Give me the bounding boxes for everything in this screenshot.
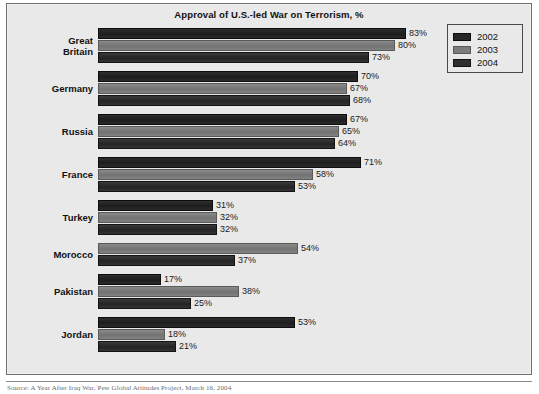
category-label: Morocco — [7, 249, 93, 260]
bar-2002[interactable] — [98, 114, 347, 125]
category-label: GreatBritain — [7, 35, 93, 57]
bar-stack: 71%58%53% — [98, 157, 382, 193]
bar-2003[interactable] — [98, 83, 347, 94]
bar-2002[interactable] — [98, 274, 161, 285]
bar-2004[interactable] — [98, 95, 350, 106]
bar-2002[interactable] — [98, 71, 358, 82]
bar-2004[interactable] — [98, 138, 335, 149]
bar-stack: 67%65%64% — [98, 114, 368, 150]
chart-frame: Approval of U.S.-led War on Terrorism, %… — [6, 3, 532, 375]
bar-row: 17% — [98, 274, 260, 285]
bar-2004[interactable] — [98, 341, 176, 352]
bar-2003[interactable] — [98, 329, 165, 340]
bar-stack: 83%80%73% — [98, 28, 427, 64]
bar-group: Turkey31%32%32% — [7, 200, 533, 235]
bar-value-label: 37% — [235, 255, 256, 266]
category-label: France — [7, 169, 93, 180]
bar-2004[interactable] — [98, 255, 235, 266]
bar-value-label: 32% — [217, 224, 238, 235]
bar-2002[interactable] — [98, 157, 361, 168]
category-label: Turkey — [7, 212, 93, 223]
bar-value-label: 73% — [369, 52, 390, 63]
bar-value-label: 67% — [347, 114, 368, 125]
legend-label: 2004 — [477, 56, 498, 69]
bar-row: 32% — [98, 212, 238, 223]
bar-row: 31% — [98, 200, 238, 211]
bar-group: France71%58%53% — [7, 157, 533, 192]
bar-2004[interactable] — [98, 224, 217, 235]
bar-row: 54% — [98, 243, 319, 254]
bar-stack: 17%38%25% — [98, 274, 260, 310]
bar-value-label: 71% — [361, 157, 382, 168]
bar-2003[interactable] — [98, 169, 313, 180]
bar-value-label: 64% — [335, 138, 356, 149]
bar-2002[interactable] — [98, 28, 406, 39]
chart-legend: 200220032004 — [447, 24, 523, 73]
bar-2002[interactable] — [98, 317, 295, 328]
bar-row: 73% — [98, 52, 427, 63]
bar-value-label: 18% — [165, 329, 186, 340]
bar-2003[interactable] — [98, 40, 395, 51]
bar-row: 38% — [98, 286, 260, 297]
legend-item-2002[interactable]: 2002 — [453, 29, 517, 42]
bar-group: Morocco54%37% — [7, 243, 533, 266]
bar-value-label: 54% — [298, 243, 319, 254]
bar-2003[interactable] — [98, 212, 217, 223]
bar-value-label: 58% — [313, 169, 334, 180]
bar-stack: 70%67%68% — [98, 71, 379, 107]
bar-row: 37% — [98, 255, 319, 266]
source-note: Source: A Year After Iraq War, Pew Globa… — [7, 384, 527, 392]
bar-value-label: 32% — [217, 212, 238, 223]
legend-swatch-icon — [453, 59, 471, 67]
bar-2003[interactable] — [98, 243, 298, 254]
bar-row: 53% — [98, 317, 316, 328]
bar-2004[interactable] — [98, 181, 295, 192]
bar-value-label: 67% — [347, 83, 368, 94]
bar-stack: 31%32%32% — [98, 200, 238, 236]
bar-2002[interactable] — [98, 200, 213, 211]
bar-group: Jordan53%18%21% — [7, 317, 533, 352]
bar-group: Pakistan17%38%25% — [7, 274, 533, 309]
bar-value-label: 17% — [161, 274, 182, 285]
plot-area: GreatBritain83%80%73%Germany70%67%68%Rus… — [7, 24, 533, 372]
bar-group: Russia67%65%64% — [7, 114, 533, 149]
bar-row: 21% — [98, 341, 316, 352]
category-label: Russia — [7, 126, 93, 137]
bar-2003[interactable] — [98, 286, 239, 297]
legend-item-2004[interactable]: 2004 — [453, 55, 517, 68]
bar-value-label: 68% — [350, 95, 371, 106]
bar-row: 67% — [98, 114, 368, 125]
bar-stack: 54%37% — [98, 243, 319, 267]
bar-value-label: 65% — [339, 126, 360, 137]
bar-value-label: 38% — [239, 286, 260, 297]
legend-item-2003[interactable]: 2003 — [453, 42, 517, 55]
bar-row: 32% — [98, 224, 238, 235]
category-label: Jordan — [7, 329, 93, 340]
bar-row: 64% — [98, 138, 368, 149]
bar-group: Germany70%67%68% — [7, 71, 533, 106]
bar-value-label: 25% — [191, 298, 212, 309]
category-label: Pakistan — [7, 286, 93, 297]
bar-row: 83% — [98, 28, 427, 39]
bar-row: 71% — [98, 157, 382, 168]
bar-row: 53% — [98, 181, 382, 192]
bar-row: 25% — [98, 298, 260, 309]
legend-swatch-icon — [453, 46, 471, 54]
legend-swatch-icon — [453, 33, 471, 41]
bar-value-label: 21% — [176, 341, 197, 352]
bar-row: 58% — [98, 169, 382, 180]
figure: Approval of U.S.-led War on Terrorism, %… — [0, 0, 539, 394]
bar-value-label: 70% — [358, 71, 379, 82]
bar-2004[interactable] — [98, 52, 369, 63]
bar-stack: 53%18%21% — [98, 317, 316, 353]
bar-value-label: 31% — [213, 200, 234, 211]
bar-value-label: 80% — [395, 40, 416, 51]
bar-2004[interactable] — [98, 298, 191, 309]
bar-row: 68% — [98, 95, 379, 106]
bar-2003[interactable] — [98, 126, 339, 137]
category-label: Germany — [7, 83, 93, 94]
chart-title: Approval of U.S.-led War on Terrorism, % — [7, 9, 531, 20]
bar-row: 65% — [98, 126, 368, 137]
bar-row: 18% — [98, 329, 316, 340]
bar-row: 80% — [98, 40, 427, 51]
